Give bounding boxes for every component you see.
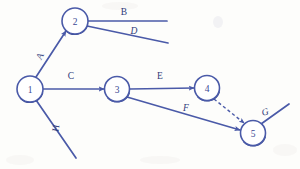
edge-A: A	[34, 31, 66, 77]
node-2-label: 2	[73, 17, 78, 27]
edge-C: C	[43, 71, 104, 89]
edge-D: D	[87, 26, 168, 43]
node-4[interactable]: 4	[195, 76, 220, 101]
edge-E: E	[130, 71, 194, 89]
edge-label-E: E	[157, 71, 163, 81]
node-3[interactable]: 3	[105, 77, 130, 102]
edge-label-A: A	[34, 51, 46, 62]
edge-label-B: B	[121, 7, 127, 17]
node-1[interactable]: 1	[17, 76, 43, 102]
edge-G: G	[260, 104, 289, 124]
edge-label-G: G	[260, 106, 270, 118]
edge-H: H	[36, 100, 76, 158]
network-diagram: A B D C E F	[0, 0, 300, 169]
node-5[interactable]: 5	[241, 121, 266, 146]
node-3-label: 3	[115, 85, 120, 95]
node-2[interactable]: 2	[62, 8, 88, 34]
edge-label-F: F	[182, 103, 189, 113]
edge-F: F	[127, 97, 240, 130]
node-1-label: 1	[28, 85, 33, 95]
diagram-canvas: A B D C E F	[0, 0, 300, 169]
edge-label-D: D	[130, 26, 138, 36]
edge-label-H: H	[50, 124, 61, 133]
edge-dummy-dashed	[214, 99, 244, 123]
node-4-label: 4	[205, 84, 210, 94]
node-5-label: 5	[251, 129, 256, 139]
edge-label-C: C	[68, 71, 74, 81]
